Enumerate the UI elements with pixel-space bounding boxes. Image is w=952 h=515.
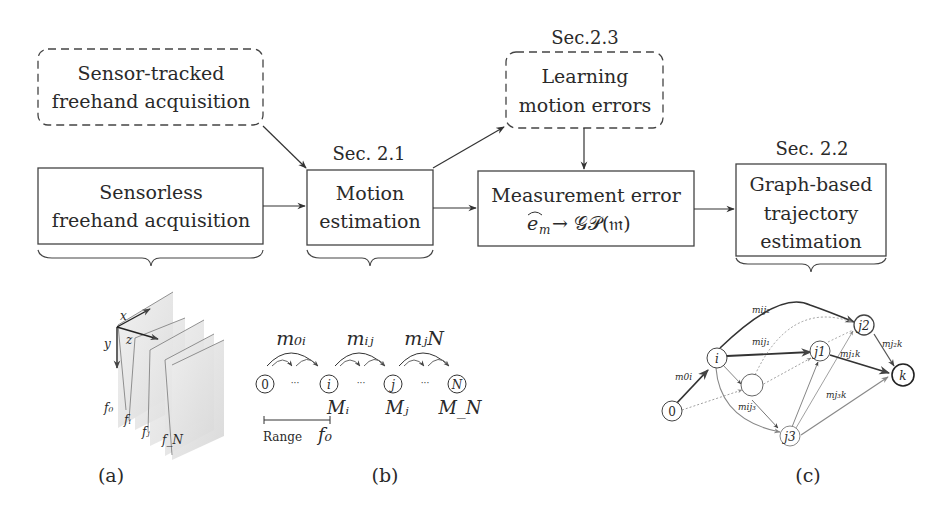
ellipsis-3: ··· (421, 378, 430, 388)
sensor-tracked-box: Sensor-tracked freehand acquisition (38, 49, 263, 125)
axis-y-label: y (103, 337, 111, 351)
label-MN: M_N (437, 397, 482, 419)
motion-line1: Motion (336, 182, 404, 204)
motion-estimation-box: Sec. 2.1 Motion estimation (307, 143, 433, 266)
measurement-lhs: e (527, 212, 538, 234)
motion-line2: estimation (319, 210, 420, 232)
panel-b-chain: 0 i j N ··· ··· ··· m₀ᵢ mᵢⱼ mⱼN Mᵢ Mⱼ M_… (256, 327, 483, 486)
edge-label-ej3k: mj₃k (826, 390, 846, 400)
graph-line2: trajectory (764, 202, 859, 224)
transform-m0i: m₀ᵢ (276, 327, 306, 349)
panel-c-graph: 0 i j1 j2 j3 k m0i mij₂ mij₁ mij₃ mj₁k m… (662, 302, 914, 486)
graph-node-0: 0 (668, 405, 676, 419)
axis-z-label: z (125, 333, 133, 347)
section-2-3-label: Sec.2.3 (551, 27, 618, 48)
graph-line1: Graph-based (749, 173, 872, 195)
measurement-error-box: Measurement error e m → 𝒢𝒫(𝔪) (478, 171, 694, 246)
graph-node-j2: j2 (855, 319, 869, 333)
node-i: i (327, 378, 331, 392)
range-label: Range (263, 430, 302, 444)
graph-node-k: k (899, 369, 906, 383)
node-N: N (451, 378, 463, 392)
section-2-2-label: Sec. 2.2 (775, 138, 848, 159)
graph-node-j3: j3 (781, 430, 796, 444)
frame-f0-label: f₀ (103, 401, 113, 415)
edge-label-ej2k: mj₂k (882, 339, 902, 349)
node-j: j (388, 378, 395, 392)
sensor-tracked-line1: Sensor-tracked (78, 62, 225, 84)
brace-b (307, 250, 433, 266)
graph-trajectory-box: Sec. 2.2 Graph-based trajectory estimati… (736, 138, 886, 272)
ellipsis-2: ··· (357, 378, 366, 388)
caption-b: (b) (372, 464, 399, 486)
graph-node-i: i (715, 352, 719, 366)
brace-a (38, 250, 263, 266)
pipeline-figure: Sensor-tracked freehand acquisition Sens… (0, 0, 952, 515)
sensorless-box: Sensorless freehand acquisition (38, 168, 263, 266)
ellipsis-1: ··· (291, 378, 300, 388)
measurement-line1: Measurement error (491, 184, 681, 206)
edge-label-eij1: mij₁ (752, 337, 770, 347)
graph-line3: estimation (760, 230, 861, 252)
panel-a-frames: x y z f₀ fᵢ fⱼ f_N (a) (98, 292, 224, 486)
caption-c: (c) (795, 464, 820, 486)
frame-fN-label: f_N (161, 433, 183, 447)
learning-line1: Learning (542, 65, 629, 87)
caption-a: (a) (98, 464, 124, 486)
learning-line2: motion errors (519, 94, 652, 116)
node-0: 0 (261, 378, 269, 392)
range-frame: f₀ (316, 424, 332, 445)
sensor-tracked-line2: freehand acquisition (52, 90, 250, 112)
frame-fi-label: fᵢ (123, 413, 131, 427)
learning-errors-box: Sec.2.3 Learning motion errors (506, 27, 663, 128)
frame-fj-label: fⱼ (141, 425, 150, 439)
label-Mi: Mᵢ (326, 397, 349, 418)
edge-label-eij2: mij₂ (752, 305, 770, 315)
edge-label-eij3: mij₃ (738, 402, 756, 412)
axis-x-label: x (120, 309, 127, 323)
graph-node-j1: j1 (811, 345, 825, 359)
brace-c (736, 258, 886, 272)
measurement-lhs-sub: m (539, 223, 550, 237)
edge-label-e0i: m0i (675, 372, 692, 382)
section-2-1-label: Sec. 2.1 (332, 143, 405, 164)
label-Mj: Mⱼ (384, 397, 408, 418)
transform-mij: mᵢⱼ (347, 327, 374, 349)
measurement-rhs: → 𝒢𝒫(𝔪) (552, 212, 631, 234)
sensorless-line1: Sensorless (99, 181, 203, 203)
sensorless-line2: freehand acquisition (52, 209, 250, 231)
edge-label-ej1k: mj₁k (840, 349, 860, 359)
transform-mjN: mⱼN (404, 327, 445, 349)
